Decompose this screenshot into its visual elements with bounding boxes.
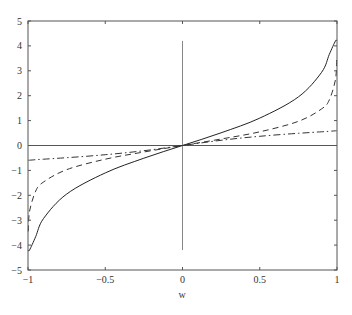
line-chart: −1−0.500.51−5−4−3−2−1012345 w xyxy=(0,0,352,315)
y-tick-label: 5 xyxy=(17,16,22,27)
plot-area xyxy=(28,40,337,251)
x-tick-label: 0.5 xyxy=(254,274,267,285)
y-tick-label: −5 xyxy=(11,265,22,276)
y-tick-label: 2 xyxy=(17,90,22,101)
y-tick-label: 3 xyxy=(17,65,22,76)
x-tick-label: 1 xyxy=(335,274,340,285)
y-tick-label: −1 xyxy=(11,165,22,176)
y-tick-label: 4 xyxy=(17,40,22,51)
y-tick-label: 0 xyxy=(17,140,22,151)
y-tick-label: 1 xyxy=(17,115,22,126)
axes: −1−0.500.51−5−4−3−2−1012345 xyxy=(11,16,339,286)
x-tick-label: 0 xyxy=(180,274,185,285)
x-tick-label: −1 xyxy=(23,274,34,285)
x-tick-label: −0.5 xyxy=(96,274,114,285)
x-axis-label: w xyxy=(178,289,186,300)
y-tick-label: −4 xyxy=(11,240,22,251)
y-tick-label: −3 xyxy=(11,215,22,226)
y-tick-label: −2 xyxy=(11,190,22,201)
